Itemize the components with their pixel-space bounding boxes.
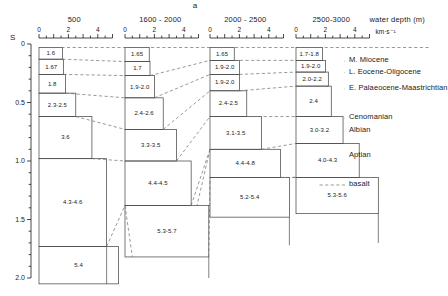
horizon-cenomanian-seg2 [176, 117, 210, 161]
depth-tick-label-1.5: 1.5 [15, 216, 25, 223]
horizon-l-eocene-oligocene-seg3 [239, 72, 296, 74]
velocity-value-c4-l1: 1.7-1.8 [300, 51, 319, 57]
velocity-value-c2-l5: 3.3-3.5 [141, 142, 160, 148]
velocity-tick-label-1-4: 4 [96, 27, 100, 34]
velocity-tick-label-3-0: 0 [208, 27, 212, 34]
velocity-value-c4-l4: 2.4 [309, 98, 318, 104]
velocity-tick-label-1-0: 0 [37, 27, 41, 34]
strat-label-basalt: basalt [349, 180, 370, 188]
velocity-tick-label-2-0: 0 [123, 27, 127, 34]
velocity-tick-label-2-4: 4 [182, 27, 186, 34]
velocity-value-c1-l7: 5.4 [74, 262, 83, 268]
horizon-albian-seg3 [261, 143, 296, 149]
velocity-value-c3-l2: 1.9-2.0 [215, 64, 234, 70]
strat-label-l-eocene-oligocene: L. Eocene-Oligocene [349, 68, 421, 76]
velocity-value-c4-l7: 5.3-5.6 [327, 192, 346, 198]
velocity-value-c4-l6: 4.0-4.3 [318, 157, 337, 163]
column-header-3: 2000 - 2500 [224, 16, 266, 24]
velocity-value-c4-l3: 2.0-2.2 [302, 76, 321, 82]
velocity-value-c2-l6: 4.4-4.5 [148, 180, 167, 186]
strat-label-aptian: Aptian [349, 151, 371, 159]
fault-dashed-col2-col3 [197, 149, 210, 205]
velocity-value-c1-l6: 4.3-4.6 [63, 199, 82, 205]
velocity-value-c1-l5: 3.6 [61, 134, 70, 140]
velocity-value-c1-l4: 2.3-2.5 [48, 102, 67, 108]
velocity-tick-label-4-0: 0 [294, 27, 298, 34]
column-header-2: 1600 - 2000 [139, 16, 181, 24]
velocity-tick-label-2-2: 2 [153, 27, 157, 34]
velocity-value-c3-l7: 5.2-5.4 [240, 194, 259, 200]
velocity-tick-label-4-4: 4 [353, 27, 357, 34]
strat-label-cenomanian: Cenomanian [349, 113, 393, 121]
horizon-aptian-seg1 [107, 205, 125, 246]
horizon-e-palaeocene-seg3 [239, 86, 296, 91]
horizon-e-palaeocene-seg2 [163, 91, 210, 130]
horizon-e-palaeocene-seg1 [65, 93, 125, 98]
horizon-l-eocene-oligocene-seg1 [64, 74, 125, 75]
velocity-tick-label-3-2: 2 [238, 27, 242, 34]
depth-tick-label-2.0: 2.0 [15, 274, 25, 281]
horizon-m-miocene-seg2 [150, 60, 210, 75]
velocity-value-c1-l2: 1.67 [45, 64, 57, 70]
column-header-4: 2500-3000 [312, 16, 350, 24]
velocity-value-c3-l3: 1.9-2.0 [215, 79, 234, 85]
velocity-value-c1-l3: 1.8 [48, 81, 57, 87]
velocity-value-c3-l6: 4.4-4.8 [236, 160, 255, 166]
depth-tick-label-0.5: 0.5 [15, 99, 25, 106]
depth-axis-label-s: S [10, 34, 15, 42]
velocity-axis-unit-label: km·s⁻¹ [376, 29, 396, 36]
velocity-value-c3-l4: 2.4-2.5 [219, 100, 238, 106]
depth-tick-label-1.0: 1.0 [15, 157, 25, 164]
velocity-value-c3-l5: 3.1-3.5 [226, 130, 245, 136]
column-header-1: 500 [68, 16, 81, 24]
horizon-albian-seg2 [191, 149, 210, 205]
strat-label-albian: Albian [349, 126, 370, 134]
velocity-value-c4-l2: 1.9-2.0 [301, 63, 320, 69]
velocity-tick-label-1-2: 2 [67, 27, 71, 34]
velocity-value-c2-l1: 1.65 [131, 51, 143, 57]
horizon-cenomanian-seg1 [76, 117, 125, 130]
velocity-tick-label-3-4: 4 [267, 27, 271, 34]
strat-label-e-palaeocene-maastrichtian: E. Palaeocene-Maastrichtian [349, 84, 448, 92]
velocity-value-c4-l5: 3.0-3.2 [310, 127, 329, 133]
velocity-value-c2-l7: 5.3-5.7 [157, 228, 176, 234]
water-depth-units-label: water depth (m) [370, 16, 426, 24]
fault-dashed-col2 [125, 205, 132, 256]
velocity-value-c3-l1: 1.65 [216, 51, 228, 57]
depth-tick-label-0: 0 [21, 40, 25, 47]
figure-panel-letter: a [193, 2, 197, 10]
velocity-value-c1-l1: 1.6 [46, 50, 55, 56]
velocity-value-c2-l2: 1.7 [133, 65, 142, 71]
velocity-tick-label-4-2: 2 [324, 27, 328, 34]
strat-label-m-miocene: M. Miocene [349, 56, 389, 64]
velocity-value-c2-l4: 2.4-2.6 [134, 110, 153, 116]
horizon-m-miocene-seg1 [63, 59, 125, 61]
horizon-l-eocene-oligocene-seg2 [154, 74, 210, 97]
velocity-value-c2-l3: 1.9-2.0 [130, 84, 149, 90]
